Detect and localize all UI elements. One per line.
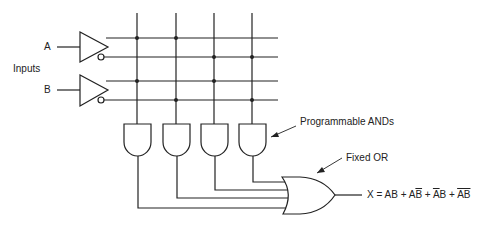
- input-a-label: A: [44, 41, 51, 52]
- input-b-label: B: [44, 84, 51, 95]
- output-prefix: X =: [367, 189, 385, 200]
- and-gate-4-icon: [239, 124, 266, 156]
- fuse-dots: [135, 36, 254, 102]
- fixed-or-label: Fixed OR: [346, 152, 388, 163]
- or-arrowhead-icon: [317, 167, 325, 173]
- and-gate-1-icon: [124, 124, 151, 156]
- or-gate-icon: [282, 177, 335, 214]
- and-gate-3-icon: [201, 124, 228, 156]
- inputs-label: Inputs: [13, 63, 40, 74]
- inverter-bubble-b-icon: [98, 97, 104, 103]
- output-expression: X = AB + AB + AB + AB: [367, 189, 470, 200]
- and-gate-2-icon: [163, 124, 190, 156]
- and-arrowhead-icon: [271, 132, 279, 137]
- inverter-bubble-a-icon: [98, 54, 104, 60]
- and2-to-or: [177, 156, 292, 198]
- programmable-ands-label: Programmable ANDs: [300, 116, 394, 127]
